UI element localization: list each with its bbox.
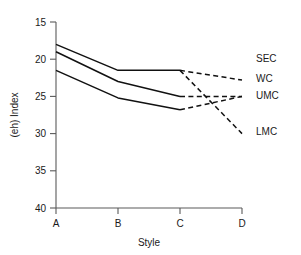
y-tick-label-40: 40 bbox=[35, 203, 47, 214]
chart-canvas: 15 20 25 30 35 40 (eh) Index A B C D Sty… bbox=[0, 0, 301, 255]
x-tick-label-c: C bbox=[176, 218, 183, 229]
series-line-umc-dashed bbox=[180, 96, 242, 109]
series-label-umc: UMC bbox=[256, 90, 279, 101]
series-layer bbox=[56, 44, 242, 133]
series-line-lmc-dashed bbox=[180, 70, 242, 133]
line-chart: 15 20 25 30 35 40 (eh) Index A B C D Sty… bbox=[0, 0, 301, 255]
series-line-umc-solid bbox=[56, 70, 180, 109]
series-labels: SEC WC UMC LMC bbox=[256, 53, 279, 137]
x-tick-label-a: A bbox=[53, 218, 60, 229]
y-tick-label-25: 25 bbox=[35, 91, 47, 102]
series-label-wc: WC bbox=[256, 73, 273, 84]
y-axis: 15 20 25 30 35 40 (eh) Index bbox=[9, 17, 56, 214]
y-tick-label-30: 30 bbox=[35, 128, 47, 139]
x-axis: A B C D Style bbox=[53, 208, 246, 248]
y-axis-title: (eh) Index bbox=[9, 92, 20, 137]
series-line-wc-solid bbox=[56, 52, 180, 97]
x-tick-label-b: B bbox=[115, 218, 122, 229]
series-label-lmc: LMC bbox=[256, 126, 277, 137]
x-tick-label-d: D bbox=[238, 218, 245, 229]
series-label-sec: SEC bbox=[256, 53, 277, 64]
y-tick-label-20: 20 bbox=[35, 54, 47, 65]
x-axis-title: Style bbox=[138, 237, 161, 248]
y-tick-label-35: 35 bbox=[35, 165, 47, 176]
series-line-sec-solid bbox=[56, 44, 180, 70]
series-line-sec-dashed bbox=[180, 70, 242, 80]
y-tick-label-15: 15 bbox=[35, 17, 47, 28]
